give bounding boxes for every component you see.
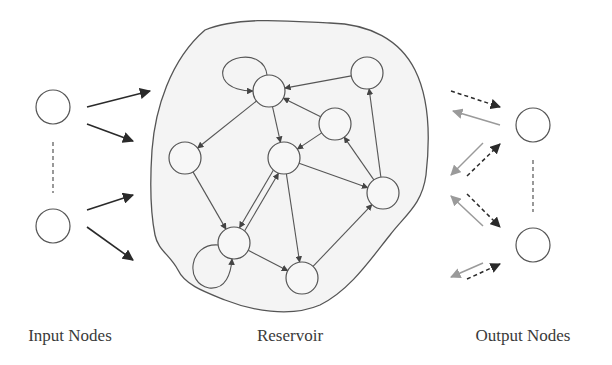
reservoir-network-diagram [0, 0, 612, 365]
reservoir-node-D [169, 142, 201, 174]
input-arrows [87, 91, 150, 260]
input-arrow [87, 195, 133, 210]
input-arrow [87, 227, 133, 260]
input-arrow [87, 91, 150, 107]
reservoir-node-H [286, 262, 318, 294]
input-node [36, 209, 70, 243]
output-nodes-label: Output Nodes [476, 326, 571, 346]
output-arrows [451, 91, 500, 279]
output-node [516, 228, 550, 262]
reservoir-node-C [319, 108, 351, 140]
input-nodes-label: Input Nodes [28, 326, 112, 346]
feedback-arrow [453, 111, 500, 125]
readout-arrow [467, 144, 500, 176]
feedback-arrow [451, 263, 483, 277]
readout-arrow [467, 264, 500, 279]
reservoir-node-A [253, 75, 285, 107]
readout-arrow [467, 194, 500, 227]
feedback-arrow [451, 196, 483, 226]
reservoir-node-E [268, 142, 300, 174]
reservoir-label: Reservoir [257, 326, 323, 346]
readout-arrow [451, 91, 500, 107]
reservoir-node-G [218, 227, 250, 259]
reservoir-node-B [351, 57, 383, 89]
output-node [516, 108, 550, 142]
feedback-arrow [451, 143, 483, 175]
reservoir-node-F [367, 177, 399, 209]
input-arrow [87, 124, 133, 141]
input-node [36, 90, 70, 124]
